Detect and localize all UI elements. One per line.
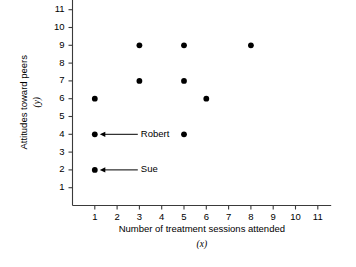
y-axis-title: Attitudes toward peers [18, 55, 29, 150]
x-axis-ticks: 1234567891011 [92, 206, 323, 222]
x-axis-variable-label: (x) [197, 239, 208, 250]
annotation-label: Robert [141, 128, 170, 139]
data-point [181, 131, 187, 137]
data-point [203, 96, 209, 102]
x-tick-label: 2 [114, 211, 119, 222]
annotation-arrow-head-icon [100, 167, 106, 172]
y-axis-ticks: 1234567891011 [54, 3, 73, 192]
x-tick-label: 7 [226, 211, 231, 222]
y-tick-label: 1 [59, 181, 64, 192]
annotation-label: Sue [141, 163, 158, 174]
x-tick-label: 5 [181, 211, 186, 222]
x-tick-label: 10 [290, 211, 301, 222]
data-point [248, 42, 254, 48]
annotation-arrow-head-icon [100, 132, 106, 137]
data-point [181, 42, 187, 48]
y-axis-variable-label: (y) [32, 97, 43, 108]
annotations-group: RobertSue [100, 128, 170, 175]
x-tick-label: 4 [159, 211, 164, 222]
data-point [181, 78, 187, 84]
plot-canvas: 12345678910111234567891011RobertSueNumbe… [0, 0, 356, 267]
x-tick-label: 8 [248, 211, 253, 222]
data-point [137, 42, 143, 48]
y-tick-label: 7 [59, 74, 64, 85]
data-point [92, 96, 98, 102]
x-axis-title: Number of treatment sessions attended [119, 223, 285, 234]
data-points-group [92, 42, 254, 172]
x-tick-label: 3 [137, 211, 142, 222]
x-tick-label: 6 [204, 211, 209, 222]
x-tick-label: 11 [313, 211, 323, 222]
y-tick-label: 11 [55, 3, 65, 14]
y-tick-label: 10 [54, 21, 65, 32]
y-tick-label: 4 [59, 128, 64, 139]
x-tick-label: 1 [92, 211, 97, 222]
data-point [92, 167, 98, 173]
data-point [137, 78, 143, 84]
y-tick-label: 2 [59, 163, 64, 174]
y-tick-label: 3 [59, 146, 64, 157]
y-tick-label: 9 [59, 39, 64, 50]
scatter-plot-figure: 12345678910111234567891011RobertSueNumbe… [0, 0, 356, 267]
x-tick-label: 9 [271, 211, 276, 222]
data-point [92, 131, 98, 137]
y-tick-label: 5 [59, 110, 64, 121]
y-tick-label: 8 [59, 57, 64, 68]
y-tick-label: 6 [59, 92, 64, 103]
